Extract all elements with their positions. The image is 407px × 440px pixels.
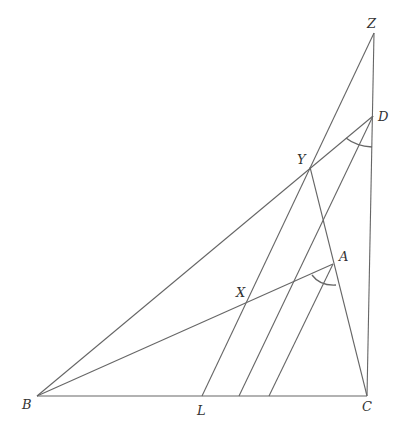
segment-LZ xyxy=(202,33,374,396)
segment-ZC xyxy=(367,33,374,396)
segment-P1D xyxy=(239,116,373,396)
point-label-Y: Y xyxy=(297,153,306,166)
point-label-B: B xyxy=(22,398,32,411)
point-label-D: D xyxy=(378,110,388,123)
point-label-L: L xyxy=(197,404,206,417)
point-label-C: C xyxy=(362,400,372,413)
point-label-X: X xyxy=(236,286,245,299)
point-label-A: A xyxy=(339,250,348,263)
geometry-diagram: Z D Y A X B L C xyxy=(0,0,407,440)
segment-BD xyxy=(37,116,373,396)
segment-BA xyxy=(37,264,333,396)
point-label-Z: Z xyxy=(367,17,376,30)
angle-arc-A xyxy=(312,275,336,285)
diagram-canvas xyxy=(0,0,407,440)
